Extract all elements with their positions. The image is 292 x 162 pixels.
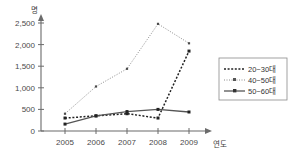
x-axis-unit-label: 연도 bbox=[213, 140, 227, 149]
x-tick-label-2007: 2007 bbox=[118, 138, 136, 147]
line-chart: 0 500 1,000 1,500 2,000 2,500 명 2005 200… bbox=[0, 0, 292, 162]
series-2 bbox=[64, 23, 190, 115]
y-axis bbox=[38, 14, 44, 131]
data-point-marker bbox=[157, 108, 160, 111]
data-point-marker bbox=[126, 110, 129, 113]
y-axis-unit-label: 명 bbox=[31, 5, 38, 15]
series-3 bbox=[64, 108, 191, 126]
data-point-marker bbox=[64, 113, 66, 115]
x-tick-label-2006: 2006 bbox=[87, 138, 105, 147]
y-axis-arrow-icon bbox=[38, 14, 44, 21]
series-layer bbox=[64, 23, 191, 126]
data-point-marker bbox=[64, 123, 67, 126]
data-point-marker bbox=[188, 42, 190, 44]
legend-label-20-30: 20~30대 bbox=[248, 65, 276, 74]
y-tick-label-2500: 2,500 bbox=[15, 19, 36, 28]
chart-svg: 0 500 1,000 1,500 2,000 2,500 명 2005 200… bbox=[0, 0, 292, 162]
series-line bbox=[65, 51, 189, 118]
y-tick-labels: 0 500 1,000 1,500 2,000 2,500 bbox=[15, 19, 36, 136]
legend-marker-50-60-icon bbox=[233, 89, 236, 92]
x-tick-label-2008: 2008 bbox=[149, 138, 167, 147]
data-point-marker bbox=[157, 117, 160, 120]
legend-label-40-50: 40~50대 bbox=[248, 76, 276, 85]
y-tick-label-2000: 2,000 bbox=[15, 41, 36, 50]
y-tick-label-0: 0 bbox=[31, 127, 36, 136]
y-tick-label-1000: 1,000 bbox=[15, 84, 36, 93]
data-point-marker bbox=[188, 50, 191, 53]
x-tick-label-2005: 2005 bbox=[56, 138, 74, 147]
data-point-marker bbox=[188, 110, 191, 113]
data-point-marker bbox=[157, 23, 159, 25]
legend-marker-40-50-icon bbox=[233, 78, 236, 81]
x-tick-labels: 2005 2006 2007 2008 2009 bbox=[56, 138, 198, 147]
data-point-marker bbox=[95, 85, 97, 87]
data-point-marker bbox=[126, 68, 128, 70]
x-axis-arrow-icon bbox=[205, 128, 212, 134]
data-point-marker bbox=[95, 114, 98, 117]
x-tick-label-2009: 2009 bbox=[180, 138, 198, 147]
y-tick-label-500: 500 bbox=[22, 105, 36, 114]
series-1 bbox=[64, 50, 191, 120]
legend-label-50-60: 50~60대 bbox=[248, 87, 276, 96]
data-point-marker bbox=[64, 117, 67, 120]
legend: 20~30대 40~50대 50~60대 bbox=[219, 58, 287, 100]
y-tick-label-1500: 1,500 bbox=[15, 62, 36, 71]
